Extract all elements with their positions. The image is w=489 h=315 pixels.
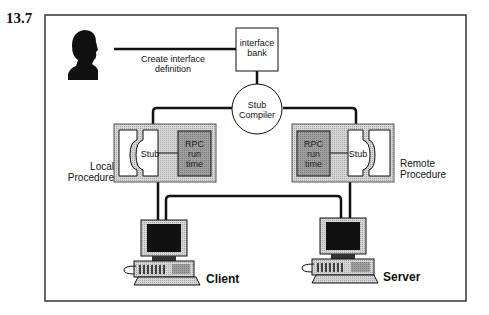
local-runtime-line3: time xyxy=(178,159,211,169)
create-interface-label: Create interface definition xyxy=(128,54,218,74)
remote-procedure-line2: Procedure xyxy=(400,169,460,180)
remote-stub-label: Stub xyxy=(347,149,369,159)
create-interface-line2: definition xyxy=(128,64,218,74)
stub-compiler-line2: Compiler xyxy=(232,110,282,120)
interface-bank-label: interface bank xyxy=(236,38,278,58)
local-stub-label: Stub xyxy=(139,149,161,159)
stub-compiler-label: Stub Compiler xyxy=(232,100,282,120)
remote-runtime-line2: run xyxy=(297,149,330,159)
server-label: Server xyxy=(383,270,420,284)
remote-procedure-label: Remote Procedure xyxy=(400,158,460,180)
stub-compiler-line1: Stub xyxy=(232,100,282,110)
remote-runtime-line3: time xyxy=(297,159,330,169)
local-procedure-label: Local Procedure xyxy=(60,161,114,183)
local-runtime-label: RPC run time xyxy=(178,139,211,169)
user-silhouette-icon xyxy=(68,30,98,80)
remote-procedure-line1: Remote xyxy=(400,158,460,169)
local-runtime-line1: RPC xyxy=(178,139,211,149)
client-label: Client xyxy=(206,272,239,286)
remote-runtime-label: RPC run time xyxy=(297,139,330,169)
local-procedure-line1: Local xyxy=(60,161,114,172)
client-computer-icon xyxy=(124,220,200,285)
remote-runtime-line1: RPC xyxy=(297,139,330,149)
local-runtime-line2: run xyxy=(178,149,211,159)
create-interface-line1: Create interface xyxy=(128,54,218,64)
interface-bank-line1: interface xyxy=(236,38,278,48)
server-computer-icon xyxy=(302,218,378,283)
interface-bank-line2: bank xyxy=(236,48,278,58)
local-procedure-line2: Procedure xyxy=(60,172,114,183)
